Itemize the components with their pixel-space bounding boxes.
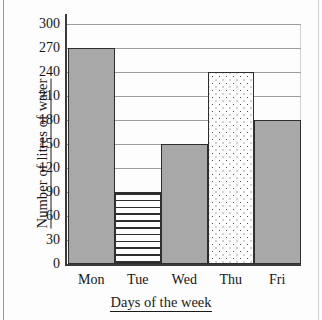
figure-right-border	[318, 0, 319, 320]
x-axis-tick-label-mon: Mon	[78, 272, 104, 288]
y-axis-tick-label: 90	[46, 184, 60, 200]
x-axis-title: Days of the week	[0, 294, 322, 311]
x-axis-tick-label-fri: Fri	[269, 272, 285, 288]
y-axis-tick-label: 240	[39, 64, 60, 80]
y-axis-tick-label: 300	[39, 16, 60, 32]
bar-thu	[208, 72, 255, 264]
bar-mon	[68, 48, 115, 264]
x-axis-line	[65, 264, 301, 266]
y-axis-tick-label: 30	[46, 232, 60, 248]
y-axis-tick-label: 180	[39, 112, 60, 128]
y-axis-tick-label: 210	[39, 88, 60, 104]
bar-tue	[115, 192, 162, 264]
bar-wed	[161, 144, 208, 264]
y-axis-tick-label: 150	[39, 136, 60, 152]
bar-chart-figure: Number of litres of water Days of the we…	[0, 0, 322, 320]
x-axis-tick-label-wed: Wed	[172, 272, 197, 288]
y-axis-tick-label: 60	[46, 208, 60, 224]
y-axis-tick-label: 120	[39, 160, 60, 176]
x-axis-tick-label-thu: Thu	[219, 272, 242, 288]
y-axis-tick-label: 270	[39, 40, 60, 56]
figure-left-border	[3, 0, 4, 320]
bar-fri	[254, 120, 301, 264]
x-axis-title-text: Days of the week	[110, 294, 211, 312]
y-axis-tick-label: 0	[53, 256, 60, 272]
gridline	[67, 24, 301, 25]
y-axis-line	[65, 14, 67, 265]
plot-area: 0306090120150180210240270300 MonTueWedTh…	[67, 14, 301, 264]
x-axis-tick-label-tue: Tue	[127, 272, 148, 288]
